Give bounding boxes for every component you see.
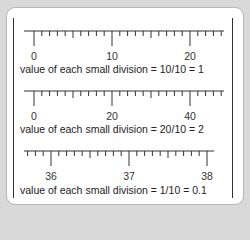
scale-1-label-1: 10: [106, 50, 118, 62]
scale-3-label-1: 37: [123, 170, 135, 182]
scale-3-caption: value of each small division = 1/10 = 0.…: [20, 184, 207, 196]
scale-1-ticks: [24, 31, 224, 46]
scale-3-label-0: 36: [45, 170, 57, 182]
scale-1-label-2: 20: [184, 50, 196, 62]
scale-2-label-1: 20: [106, 110, 118, 122]
scale-3-ticks: [24, 151, 214, 166]
scale-3-label-2: 38: [201, 170, 213, 182]
scale-1-caption: value of each small division = 10/10 = 1: [20, 63, 204, 75]
scale-2-ticks: [24, 91, 224, 106]
scale-2-caption: value of each small division = 20/10 = 2: [20, 123, 204, 135]
scale-1-label-0: 0: [31, 50, 37, 62]
scale-2-label-2: 40: [184, 110, 196, 122]
scale-2-label-0: 0: [31, 110, 37, 122]
